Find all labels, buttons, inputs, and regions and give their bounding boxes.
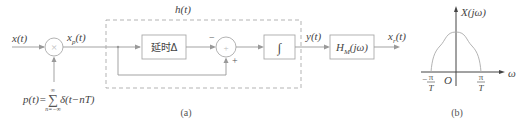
arrow-head-icon [258, 45, 264, 50]
sampled-signal-label: xp(t) [66, 31, 86, 46]
svg-text:π: π [479, 72, 484, 82]
multiplier-node: × [45, 38, 63, 56]
summer-node: + [216, 37, 236, 57]
sum-lower-limit: n=−∞ [45, 106, 61, 112]
impulse-train-label: p(t)= [22, 93, 46, 106]
multiplier-symbol: × [51, 41, 57, 53]
sum-symbol: ∑ [48, 92, 58, 107]
arrow-head-icon [135, 45, 141, 50]
arrow-head-icon [394, 45, 400, 50]
intermediate-signal-label: y(t) [305, 30, 322, 43]
arrow-head-icon [39, 45, 45, 50]
svg-text:π: π [429, 72, 434, 82]
spectrum-plot-b: X(jω) ω O − π T π T (b) [421, 6, 516, 119]
arrow-head-icon [454, 6, 458, 12]
caption-a: (a) [180, 107, 191, 119]
system-label: h(t) [175, 3, 191, 16]
delay-block: 延时Δ [142, 35, 186, 59]
block-diagram-a: x(t) × p(t)= ∞ ∑ n=−∞ δ(t−nT) xp(t) [11, 3, 406, 119]
impulse-term: δ(t−nT) [60, 93, 95, 106]
delay-block-label: 延时Δ [151, 42, 178, 53]
arrow-head-icon [499, 70, 505, 74]
filter-block: HM(jω) [330, 35, 374, 59]
caption-b: (b) [451, 107, 463, 119]
arrow-head-icon [210, 45, 216, 50]
x-axis-label: ω [508, 67, 516, 79]
left-tick-label: − π T [422, 72, 435, 93]
svg-text:T: T [478, 83, 484, 93]
svg-text:−: − [422, 74, 427, 84]
right-tick-label: π T [477, 72, 485, 93]
integrator-block: ∫ [264, 35, 295, 59]
impulse-train-formula: p(t)= ∞ ∑ n=−∞ δ(t−nT) [22, 87, 95, 112]
arrow-head-icon [324, 45, 330, 50]
input-label: x(t) [11, 32, 28, 45]
summer-symbol: + [223, 43, 228, 53]
arrow-head-icon [224, 58, 229, 64]
output-label: xr(t) [387, 30, 406, 45]
plus-sign: + [232, 55, 238, 66]
svg-text:T: T [428, 83, 434, 93]
minus-sign: − [209, 32, 215, 43]
origin-label: O [444, 74, 452, 86]
arrow-head-icon [52, 57, 57, 63]
diagram-canvas: x(t) × p(t)= ∞ ∑ n=−∞ δ(t−nT) xp(t) [0, 0, 523, 131]
y-axis-label: X(jω) [460, 6, 486, 19]
